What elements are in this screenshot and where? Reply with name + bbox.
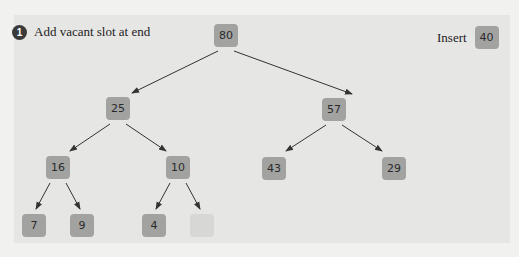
tree-node-16: 16 — [46, 156, 70, 179]
insert-indicator: Insert 40 — [437, 26, 499, 49]
insert-label: Insert — [437, 30, 467, 46]
step-description: Add vacant slot at end — [34, 24, 150, 40]
step-caption: 1 Add vacant slot at end — [12, 24, 150, 40]
step-number-badge: 1 — [12, 25, 27, 40]
vacant-slot-node — [190, 214, 214, 237]
insert-value-node: 40 — [475, 26, 499, 49]
tree-node-7: 7 — [22, 214, 46, 237]
tree-node-9: 9 — [70, 214, 94, 237]
tree-node-10: 10 — [166, 156, 190, 179]
tree-node-80: 80 — [214, 24, 238, 47]
tree-node-43: 43 — [262, 157, 286, 180]
tree-node-4: 4 — [142, 214, 166, 237]
tree-node-25: 25 — [106, 97, 130, 120]
tree-node-29: 29 — [382, 157, 406, 180]
tree-node-57: 57 — [322, 98, 346, 121]
